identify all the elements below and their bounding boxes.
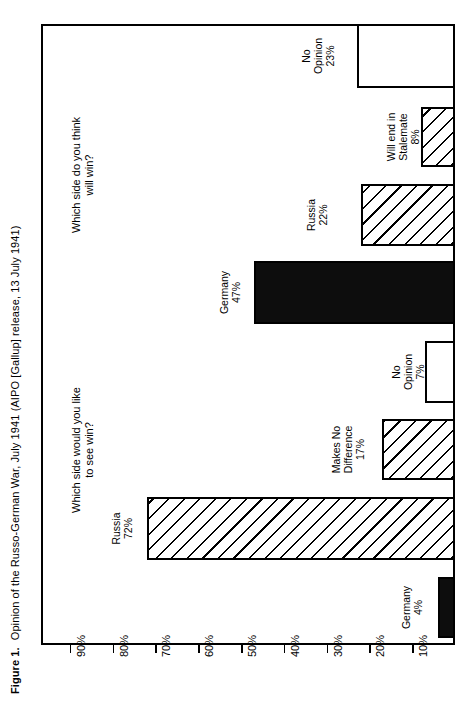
bar-no-opinion-7-label: No Opinion 7%	[390, 341, 426, 403]
bar-germany-4-label: Germany 4%	[400, 577, 424, 638]
axis-tick-90	[70, 645, 72, 653]
bar-makes-no-difference-17-label: Makes No Difference 17%	[330, 419, 366, 480]
axis-tick-label-80: 80%	[118, 635, 130, 657]
axis-tick-label-90: 90%	[75, 635, 87, 657]
bar-germany-47	[254, 261, 455, 324]
bar-no-opinion-7	[425, 341, 455, 403]
axis-tick-label-10: 10%	[417, 635, 429, 657]
bar-makes-no-difference-17	[382, 419, 455, 480]
bar-will-end-in-stalemate-8	[421, 107, 455, 167]
axis-tick-label-70: 70%	[160, 635, 172, 657]
axis-tick-label-30: 30%	[332, 635, 344, 657]
axis-tick-40	[284, 645, 286, 653]
bar-russia-72-label: Russia 72%	[110, 497, 134, 560]
axis-tick-label-20: 20%	[374, 635, 386, 657]
figure-caption: Figure 1. Opinion of the Russo-German Wa…	[0, 0, 30, 702]
question-will-win: Which side do you think will win?	[70, 75, 96, 275]
axis-tick-60	[198, 645, 200, 653]
figure-caption-label: Figure 1.	[9, 647, 21, 694]
figure-caption-text: Opinion of the Russo-German War, July 19…	[9, 225, 21, 640]
bar-germany-4	[438, 577, 455, 638]
axis-tick-70	[155, 645, 157, 653]
axis-tick-20	[369, 645, 371, 653]
axis-tick-30	[327, 645, 329, 653]
axis-tick-label-40: 40%	[289, 635, 301, 657]
question-like-to-see-win: Which side would you like to see win?	[70, 350, 96, 550]
axis-tick-80	[113, 645, 115, 653]
bar-russia-72	[147, 497, 455, 560]
bar-no-opinion-23-label: No Opinion 23%	[300, 24, 336, 88]
bar-will-end-in-stalemate-8-label: Will end in Stalemate 8%	[385, 107, 421, 167]
bar-russia-22-label: Russia 22%	[305, 184, 329, 246]
bar-germany-47-label: Germany 47%	[218, 261, 242, 324]
bar-no-opinion-23	[357, 24, 455, 88]
bar-russia-22	[361, 184, 455, 246]
axis-tick-label-60: 60%	[203, 635, 215, 657]
axis-tick-50	[241, 645, 243, 653]
axis-tick-label-50: 50%	[246, 635, 258, 657]
axis-tick-10	[412, 645, 414, 653]
